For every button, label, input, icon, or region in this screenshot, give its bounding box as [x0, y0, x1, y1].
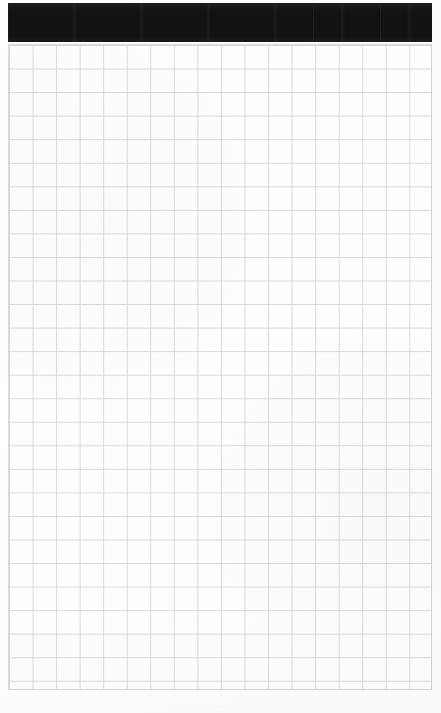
- redaction-seam-left: [313, 3, 314, 42]
- page-footer-mark: ··: [0, 703, 441, 710]
- scanned-page: ··: [0, 0, 441, 713]
- redaction-seam-right: [380, 3, 381, 42]
- grid-bottom-edge: [9, 689, 432, 690]
- grid-right-edge: [431, 45, 432, 690]
- graph-paper-grid: [8, 44, 432, 690]
- redaction-bar: [8, 3, 432, 42]
